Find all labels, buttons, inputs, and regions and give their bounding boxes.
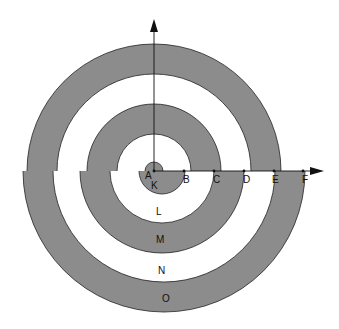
y-axis-arrow-icon <box>150 19 158 32</box>
point-label-c: C <box>213 174 220 185</box>
point-label-d: D <box>243 174 250 185</box>
region-label-m: M <box>156 234 164 245</box>
x-axis-arrow-icon <box>310 167 324 175</box>
region-label-n: N <box>158 265 165 276</box>
point-label-b: B <box>183 174 190 185</box>
spiral-diagram: A B C D E F K L M N O <box>0 0 339 329</box>
region-label-l: L <box>156 206 162 217</box>
point-label-e: E <box>272 174 279 185</box>
region-label-o: O <box>162 293 170 304</box>
point-label-f: F <box>302 174 308 185</box>
region-label-k: K <box>151 180 158 191</box>
